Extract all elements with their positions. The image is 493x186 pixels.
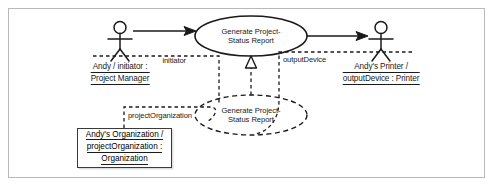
uml-use-case-diagram: Generate Project- Status Report Generate… xyxy=(0,0,493,186)
use-case-dashed-line2: Status Report xyxy=(221,115,280,124)
project-organization-role-label: projectOrganization xyxy=(128,112,192,120)
initiator-actor-name-line2: Project Manager xyxy=(91,75,150,85)
use-case-solid-line2: Status Report xyxy=(221,36,280,45)
use-case-solid-line1: Generate Project- xyxy=(221,27,280,36)
initiator-association-line xyxy=(133,27,196,36)
initiator-actor-label: Andy / initiator : Project Manager xyxy=(91,63,150,87)
output-association-line xyxy=(307,32,368,41)
initiator-actor-name-line1: Andy / initiator : xyxy=(91,63,150,73)
organization-line3: Organization xyxy=(101,154,147,165)
organization-line2: projectOrganization : xyxy=(87,142,163,153)
use-case-dashed-line1: Generate Project- xyxy=(221,106,280,115)
use-case-solid-label: Generate Project- Status Report xyxy=(221,27,280,46)
output-device-role-label: outputDevice xyxy=(283,56,326,64)
printer-actor-name-line2: outputDevice : Printer xyxy=(343,75,420,85)
initiator-actor-figure xyxy=(108,22,132,62)
initiator-role-label: initiator xyxy=(162,57,186,65)
organization-object-box: Andy's Organization / projectOrganizatio… xyxy=(77,128,172,168)
use-case-dashed-label: Generate Project- Status Report xyxy=(221,106,280,125)
realization-connector xyxy=(246,56,257,95)
printer-actor-label: Andy's Printer / outputDevice : Printer xyxy=(343,63,420,87)
printer-actor-name-line1: Andy's Printer / xyxy=(343,63,420,73)
organization-line1: Andy's Organization / xyxy=(86,130,164,141)
printer-actor-figure xyxy=(369,22,393,62)
